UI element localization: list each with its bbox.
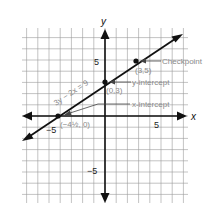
y-intercept-annotation: y-intercept (0,3) (106, 78, 170, 95)
y-intercept-coord: (0,3) (106, 86, 123, 95)
y-axis-label: y (100, 16, 107, 27)
point-checkpoint (133, 58, 138, 63)
x-axis-right-arrow-icon (177, 112, 187, 121)
tick-y-pos5: 5 (94, 57, 99, 67)
x-intercept-label: x-intercept (132, 100, 170, 109)
checkpoint-coord: (3,5) (135, 66, 152, 75)
checkpoint-annotation: Checkpoint (3,5) (135, 57, 203, 75)
y-axis-up-arrow-icon (101, 29, 110, 39)
x-axis-label: x (190, 111, 197, 122)
coordinate-plane: x y −5 5 5 −5 3y − 2x = 9 Checkpoint (3,… (0, 0, 219, 214)
x-axis-left-arrow-icon (22, 112, 32, 121)
point-y-intercept (102, 79, 107, 84)
y-intercept-label: y-intercept (132, 78, 170, 87)
point-x-intercept (55, 113, 60, 118)
tick-y-neg5: −5 (87, 166, 97, 176)
checkpoint-label: Checkpoint (162, 57, 203, 66)
y-axis-down-arrow-icon (101, 193, 110, 203)
tick-x-neg5: −5 (46, 125, 56, 135)
x-intercept-coord: (−4½, 0) (60, 120, 90, 129)
tick-x-pos5: 5 (154, 120, 159, 130)
